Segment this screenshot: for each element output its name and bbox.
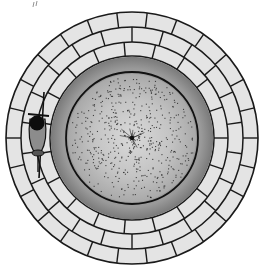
corner-sketch-mark bbox=[33, 1, 37, 7]
well-illustration bbox=[0, 0, 264, 270]
